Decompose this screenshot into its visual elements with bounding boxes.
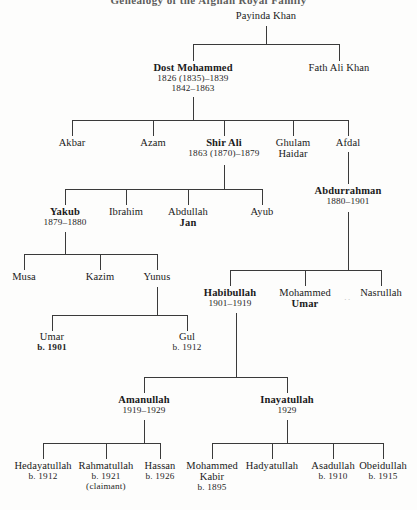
person-name: Ayub [251, 206, 274, 217]
person-rahmatullah: Rahmatullah b. 1921 (claimant) [79, 460, 134, 492]
person-dates: b. 1895 [186, 483, 238, 493]
person-name: Inayatullah [260, 394, 314, 405]
person-dates: 1880–1901 [315, 197, 382, 207]
person-yunus: Yunus [144, 271, 171, 282]
connector-to-yunus [157, 254, 158, 270]
person-hadyatullah: Hadyatullah [246, 460, 298, 471]
connector-to-shirali [224, 120, 225, 136]
person-dates: b. 1926 [145, 472, 176, 482]
connector-to-gul [187, 315, 188, 331]
person-name-second: Haidar [276, 148, 310, 159]
connector-to-hedayatullah [43, 443, 44, 459]
person-name: Gul [173, 331, 202, 342]
person-name: Umar [37, 331, 66, 342]
person-kazim: Kazim [86, 271, 115, 282]
connector-afdal-down [348, 152, 349, 184]
person-akbar: Akbar [59, 137, 86, 148]
person-dates: b. 1901 [37, 343, 66, 353]
person-dates: b. 1912 [14, 472, 71, 482]
person-name: Amanullah [118, 394, 170, 405]
person-dost-mohammed: Dost Mohammed 1826 (1835)–1839 1842–1863 [153, 62, 232, 94]
person-name: Afdal [336, 137, 360, 148]
connector-gen2-bar [193, 44, 340, 45]
person-dates: 1929 [260, 406, 314, 416]
person-hassan: Hassan b. 1926 [145, 460, 176, 482]
person-name: Shir Ali [188, 137, 259, 148]
person-name: Asadullah [311, 460, 354, 471]
connector-shirali-down [224, 165, 225, 189]
person-name: Fath Ali Khan [309, 62, 370, 73]
person-dates-second: 1842–1863 [153, 84, 232, 94]
person-ayub: Ayub [251, 206, 274, 217]
person-dates: 1863 (1870)–1879 [188, 149, 259, 159]
person-name: Ghulam [276, 137, 310, 148]
person-name: Hassan [145, 460, 176, 471]
connector-to-hassan [160, 443, 161, 459]
person-name: Nasrullah [360, 287, 402, 298]
connector-to-mohammed-kabir [212, 443, 213, 459]
connector-inayatullah-down [287, 420, 288, 443]
person-mohammed-umar: Mohammed Umar [279, 287, 331, 310]
connector-to-obeidullah [383, 443, 384, 459]
person-ibrahim: Ibrahim [109, 206, 143, 217]
family-tree-diagram: Genealogy of the Afghan Royal Family Pay… [0, 0, 417, 510]
person-name-second: Jan [168, 217, 208, 228]
connector-to-umar [52, 315, 53, 331]
person-name: Azam [140, 137, 165, 148]
person-gul: Gul b. 1912 [173, 331, 202, 353]
person-name: Hadyatullah [246, 460, 298, 471]
person-name: Obeidullah [359, 460, 407, 471]
person-fath-ali-khan: Fath Ali Khan [309, 62, 370, 73]
connector-dost-down [193, 97, 194, 120]
connector-to-mohammed-umar [305, 270, 306, 286]
connector-payinda-down [266, 26, 267, 44]
person-dates: b. 1921 [79, 472, 134, 482]
person-habibullah: Habibullah 1901–1919 [204, 287, 256, 309]
person-abdurrahman: Abdurrahman 1880–1901 [315, 185, 382, 207]
connector-to-yakub [65, 189, 66, 205]
connector-to-akbar [72, 120, 73, 136]
connector-to-kazim [100, 254, 101, 270]
person-claimant-note: (claimant) [79, 482, 134, 492]
person-payinda-khan: Payinda Khan [236, 10, 296, 21]
person-name: Musa [12, 271, 36, 282]
connector-gen4-bar [65, 189, 262, 190]
connector-to-hadyatullah [272, 443, 273, 459]
person-abdullah-jan: Abdullah Jan [168, 206, 208, 229]
person-name: Yakub [43, 206, 86, 217]
person-inayatullah: Inayatullah 1929 [260, 394, 314, 416]
connector-gen3-bar [72, 120, 348, 121]
connector-to-ibrahim [126, 189, 127, 205]
person-name: Rahmatullah [79, 460, 134, 471]
person-name: Mohammed [186, 460, 238, 471]
connector-gen6-left-bar [52, 315, 187, 316]
person-name: Yunus [144, 271, 171, 282]
connector-to-ghulam-haidar [293, 120, 294, 136]
person-name: Ibrahim [109, 206, 143, 217]
person-dates: 1919–1929 [118, 406, 170, 416]
connector-yakub-down [65, 232, 66, 254]
connector-to-abdullah-jan [188, 189, 189, 205]
connector-to-azam [153, 120, 154, 136]
scan-artifact-mark: ․․ [344, 293, 351, 302]
person-dates: 1826 (1835)–1839 [153, 74, 232, 84]
person-hedayatullah: Hedayatullah b. 1912 [14, 460, 71, 482]
person-umar: Umar b. 1901 [37, 331, 66, 353]
chart-title: Genealogy of the Afghan Royal Family [0, 0, 417, 7]
person-musa: Musa [12, 271, 36, 282]
person-shir-ali: Shir Ali 1863 (1870)–1879 [188, 137, 259, 159]
person-dates: b. 1910 [311, 472, 354, 482]
person-dates: b. 1915 [359, 472, 407, 482]
person-name: Dost Mohammed [153, 62, 232, 73]
person-name: Payinda Khan [236, 10, 296, 21]
connector-gen5-left-bar [24, 254, 157, 255]
person-name: Abdurrahman [315, 185, 382, 196]
connector-abdurrahman-down [348, 212, 349, 270]
person-azam: Azam [140, 137, 165, 148]
person-dates: 1879–1880 [43, 218, 86, 228]
connector-to-inayatullah [287, 377, 288, 393]
person-name-second: Umar [279, 298, 331, 309]
connector-to-rahmatullah [106, 443, 107, 459]
person-ghulam-haidar: Ghulam Haidar [276, 137, 310, 160]
person-name: Habibullah [204, 287, 256, 298]
